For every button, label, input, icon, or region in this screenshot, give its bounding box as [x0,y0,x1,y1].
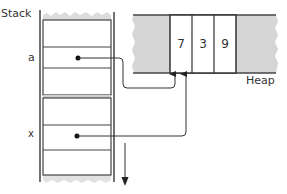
heap-title: Heap [246,75,275,86]
stack-top-fuzz [43,12,111,20]
stack-region [40,10,114,183]
stack-growth-arrow [122,143,129,186]
heap-cell-value-2: 9 [214,38,236,50]
variable-label-a: a [28,52,35,63]
stack-heap-diagram [0,0,287,194]
down-arrow-icon [122,177,129,186]
heap-cell-value-0: 7 [170,38,192,50]
stack-title: Stack [1,8,31,19]
variable-label-x: x [28,129,34,139]
heap-cell-value-1: 3 [192,38,214,50]
stack-bottom-fuzz [43,175,111,183]
